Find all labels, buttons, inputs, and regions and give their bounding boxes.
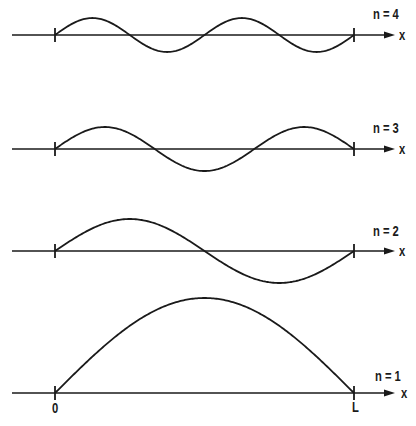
axis-label-x: x [401,386,407,400]
arrow-right-icon [384,390,395,397]
mode-label-n2: n = 2 [373,224,399,238]
arrow-right-icon [384,32,395,39]
diagram-canvas [0,0,416,426]
mode-label-n3: n = 3 [373,121,399,135]
axis-label-x: x [399,28,405,42]
standing-waves-diagram: n = 4 x n = 3 x n = 2 x n = 1 x 0 L [0,0,416,426]
axis-label-x: x [399,244,405,258]
end-label: L [352,400,359,414]
origin-label: 0 [52,401,58,415]
mode-4-group [12,18,395,52]
arrow-right-icon [384,248,395,255]
mode-1-group [12,298,395,400]
standing-wave-n1 [55,298,354,393]
axis-label-x: x [399,142,405,156]
arrow-right-icon [384,146,395,153]
mode-label-n4: n = 4 [373,7,399,21]
mode-3-group [12,127,395,171]
mode-label-n1: n = 1 [375,369,401,383]
mode-2-group [12,219,395,283]
